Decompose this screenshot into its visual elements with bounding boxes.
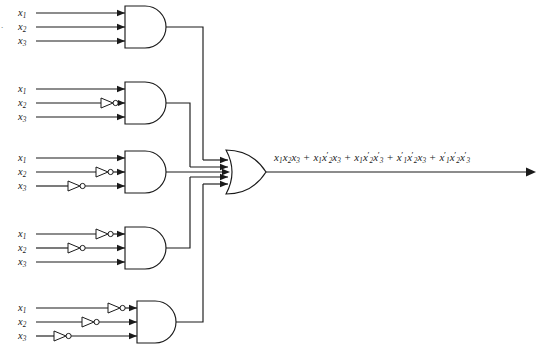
expression-operator: + [345,151,351,163]
signal-arrowhead-icon [117,231,125,237]
signal-arrowhead-icon [117,114,125,120]
inversion-bubble-icon [80,245,85,250]
expression-subscript: 3 [466,157,470,165]
signal-arrowhead-icon [117,183,125,189]
circuit-svg-canvas [0,0,541,354]
inversion-bubble-icon [94,319,99,324]
not-gate-icon-g3-x2[interactable] [96,167,108,177]
wire-and4-to-or [166,177,190,248]
and-gate-2[interactable] [125,82,166,124]
expression-term: x′1x′2x3 [397,151,426,163]
or-gate[interactable] [226,150,266,194]
logic-circuit-diagram: . x1 x2 x3 x1 x2 x3 x1 x2 x3 x1 x2 x3 x1… [0,0,541,354]
and-gate-4[interactable] [125,227,166,269]
signal-arrowhead-icon [220,174,228,180]
signal-arrowhead-icon [526,168,536,177]
expression-term: x1x′2x3 [313,151,341,163]
inversion-bubble-icon [113,100,118,105]
signal-arrowhead-icon [117,155,125,161]
wire-and2-to-or [166,103,190,167]
expression-term: x′1x′2x′3 [439,151,470,163]
expression-subscript: 3 [380,157,384,165]
not-gate-icon-g4-x1[interactable] [96,229,108,239]
signal-arrowhead-icon [220,181,228,187]
signal-arrowhead-icon [117,169,125,175]
not-gate-icon-g5-x1[interactable] [108,303,120,313]
signal-arrowhead-icon [117,24,125,30]
not-gate-icon-g3-x3[interactable] [68,181,80,191]
signal-arrowhead-icon [220,157,228,163]
signal-arrowhead-icon [129,305,137,311]
not-gate-icon-g2-x2[interactable] [101,98,113,108]
signal-arrowhead-icon [220,164,228,170]
expression-subscript: 3 [337,157,341,165]
wire-and1-to-or [166,27,203,160]
and-gate-3-group [36,151,222,193]
expression-subscript: 3 [296,157,300,165]
signal-arrowhead-icon [129,319,137,325]
expression-operator: + [387,151,393,163]
inversion-bubble-icon [66,333,71,338]
signal-arrowhead-icon [222,169,230,175]
inversion-bubble-icon [108,231,113,236]
not-gate-icon-g5-x2[interactable] [82,317,94,327]
and-gate-1-group [36,6,203,160]
signal-arrowhead-icon [117,259,125,265]
and-gate-1[interactable] [125,6,166,48]
signal-arrowhead-icon [129,333,137,339]
signal-arrowhead-icon [117,10,125,16]
output-expression: x1x2x3+x1x′2x3+x1x′2x′3+x′1x′2x3+x′1x′2x… [274,150,470,165]
signal-arrowhead-icon [118,100,125,106]
signal-arrowhead-icon [117,86,125,92]
expression-operator: + [304,151,310,163]
not-gate-icon-g4-x2[interactable] [68,243,80,253]
and-gate-4-group [36,177,190,269]
inversion-bubble-icon [108,169,113,174]
inversion-bubble-icon [120,305,125,310]
not-gate-icon-g5-x3[interactable] [54,331,66,341]
expression-term: x1x′2x′3 [354,151,383,163]
and-gate-3[interactable] [125,151,166,193]
and-gate-2-group [36,82,190,167]
and-gate-5[interactable] [137,301,176,343]
expression-operator: + [430,151,436,163]
signal-arrowhead-icon [117,245,125,251]
expression-term: x1x2x3 [274,151,300,163]
signal-arrowhead-icon [117,38,125,44]
expression-subscript: 3 [422,157,426,165]
inversion-bubble-icon [80,183,85,188]
